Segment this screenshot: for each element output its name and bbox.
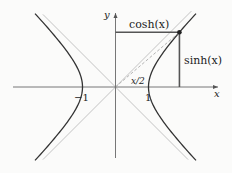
tick-label-one: 1 — [145, 92, 151, 103]
radius-ray — [116, 32, 180, 87]
x-axis-label: x — [214, 88, 220, 99]
construction — [116, 30, 182, 87]
hyperbola-diagram: y x −1 1 cosh(x) sinh(x) x/2 — [0, 0, 232, 173]
y-axis-label: y — [103, 9, 110, 20]
angle-label: x/2 — [131, 76, 145, 86]
cosh-label: cosh(x) — [129, 18, 169, 31]
hyperbola-point — [177, 30, 182, 35]
tick-label-neg-one: −1 — [74, 92, 89, 103]
y-axis-arrow-icon — [114, 13, 118, 18]
axes — [13, 13, 218, 158]
sinh-label: sinh(x) — [184, 54, 222, 67]
